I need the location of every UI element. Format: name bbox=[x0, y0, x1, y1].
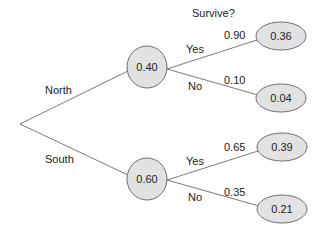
outcome-label-south-no: No bbox=[188, 191, 202, 203]
leaf-north-no-value: 0.04 bbox=[256, 92, 306, 104]
outcome-label-south-yes: Yes bbox=[186, 155, 204, 167]
leaf-south-no-value: 0.21 bbox=[257, 203, 307, 215]
prob-north-yes: 0.90 bbox=[224, 29, 245, 41]
edge-root-north bbox=[20, 71, 128, 124]
leaf-north-yes-value: 0.36 bbox=[256, 30, 306, 42]
prob-north-no: 0.10 bbox=[224, 74, 245, 86]
branch-label-north: North bbox=[45, 84, 72, 96]
edge-root-south bbox=[20, 124, 128, 175]
prob-south-no: 0.35 bbox=[224, 186, 245, 198]
edge-north-yes bbox=[167, 40, 257, 69]
node-south-value: 0.60 bbox=[127, 173, 167, 185]
diagram-title: Survive? bbox=[192, 7, 235, 19]
edge-south-yes bbox=[167, 151, 258, 180]
outcome-label-north-no: No bbox=[188, 80, 202, 92]
leaf-south-yes-value: 0.39 bbox=[257, 141, 307, 153]
prob-south-yes: 0.65 bbox=[224, 141, 245, 153]
branch-label-south: South bbox=[45, 153, 74, 165]
node-north-value: 0.40 bbox=[127, 61, 167, 73]
outcome-label-north-yes: Yes bbox=[186, 43, 204, 55]
